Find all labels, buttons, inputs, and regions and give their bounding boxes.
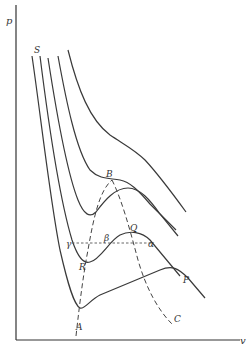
label-alpha: α bbox=[148, 239, 154, 249]
label-B: B bbox=[105, 169, 113, 179]
label-beta: β bbox=[103, 233, 109, 243]
label-S: S bbox=[34, 45, 40, 55]
label-Q: Q bbox=[130, 223, 138, 233]
label-C: C bbox=[174, 314, 181, 324]
isotherm-1 bbox=[32, 56, 205, 308]
spinodal-ARB bbox=[76, 180, 112, 336]
label-R: R bbox=[78, 262, 86, 272]
spinodal-BQC bbox=[112, 180, 172, 324]
isotherm-3 bbox=[48, 58, 178, 236]
pv-diagram: p v S B Q β α γ R P A C bbox=[0, 0, 247, 352]
label-A: A bbox=[75, 322, 83, 332]
isotherm-4 bbox=[58, 56, 176, 230]
y-axis-label: p bbox=[6, 15, 13, 26]
label-P: P bbox=[182, 275, 190, 285]
x-axis-label: v bbox=[240, 335, 246, 346]
label-gamma: γ bbox=[66, 239, 72, 249]
